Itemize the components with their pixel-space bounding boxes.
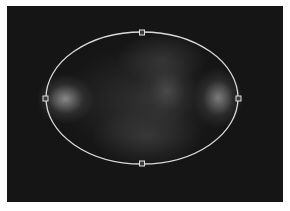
selection-overlay: [0, 0, 290, 211]
handle-right[interactable]: [236, 96, 241, 101]
caption-text: [25, 203, 265, 209]
handle-bottom[interactable]: [140, 161, 145, 166]
handle-top[interactable]: [140, 30, 145, 35]
handle-left[interactable]: [43, 96, 48, 101]
ellipse-selection[interactable]: [46, 32, 238, 164]
